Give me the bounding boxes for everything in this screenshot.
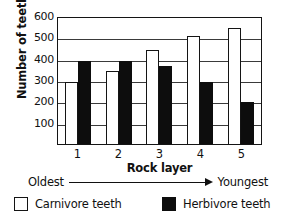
bar-group-layer-2 (106, 18, 132, 144)
bar-group-layer-1 (65, 18, 91, 144)
bar-group-layer-3 (146, 18, 172, 144)
bar-herbivore-4 (200, 82, 213, 144)
bar-carnivore-1 (65, 82, 78, 144)
y-tick-300: 300 (28, 75, 54, 86)
y-tick-200: 200 (28, 96, 54, 107)
filled-square-icon (162, 197, 176, 211)
y-tick-400: 400 (28, 54, 54, 65)
y-tick-100: 100 (28, 118, 54, 129)
bar-herbivore-5 (241, 102, 254, 144)
x-axis-title: Rock layer (57, 161, 262, 175)
legend-item-carnivore: Carnivore teeth (14, 197, 162, 211)
age-label-oldest: Oldest (28, 175, 64, 189)
age-direction-annotation: Oldest Youngest (28, 174, 268, 190)
open-square-icon (14, 197, 28, 211)
bar-group-layer-4 (187, 18, 213, 144)
bar-carnivore-5 (228, 28, 241, 144)
legend-label-herbivore: Herbivore teeth (183, 197, 270, 211)
plot-area (57, 17, 262, 145)
age-label-youngest: Youngest (218, 175, 268, 189)
bar-carnivore-2 (106, 71, 119, 144)
legend-label-carnivore: Carnivore teeth (35, 197, 122, 211)
y-axis-tick-labels: 600 500 400 300 200 100 (26, 17, 54, 145)
bar-groups (58, 18, 261, 144)
right-arrow-icon (69, 178, 213, 187)
bar-herbivore-1 (78, 61, 91, 144)
bar-group-layer-5 (228, 18, 254, 144)
bar-herbivore-2 (119, 61, 132, 144)
y-tick-600: 600 (28, 11, 54, 22)
legend-item-herbivore: Herbivore teeth (162, 197, 270, 211)
bar-carnivore-4 (187, 36, 200, 144)
bar-carnivore-3 (146, 50, 159, 144)
bar-chart-figure: Number of teeth 600 500 400 300 200 100 (0, 0, 288, 220)
bar-herbivore-3 (159, 66, 172, 144)
y-tick-500: 500 (28, 32, 54, 43)
chart-legend: Carnivore teeth Herbivore teeth (14, 193, 276, 215)
